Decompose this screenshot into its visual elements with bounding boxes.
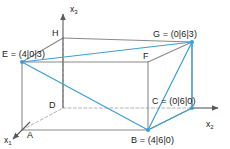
vertex-point-g — [190, 40, 194, 44]
vertex-label-d: D — [49, 101, 56, 110]
vertex-label-e: E = (4|0|3) — [2, 50, 45, 59]
vertex-label-a: A — [27, 131, 33, 140]
vertex-point-e — [20, 60, 24, 64]
vertex-label-f: F — [143, 52, 149, 61]
vertex-label-g: G = (0|6|3) — [153, 30, 197, 39]
highlight-edge-B-G — [148, 42, 192, 130]
vertex-label-b: B = (4|6|0) — [131, 136, 174, 145]
vertex-label-h: H — [52, 29, 59, 38]
figure-canvas — [0, 0, 230, 149]
axis-label-x3: x3 — [70, 5, 78, 14]
highlight-edge-E-G — [22, 42, 192, 62]
axis-label-x2: x2 — [206, 120, 214, 129]
vertex-label-c: C = (0|6|0) — [152, 97, 196, 106]
edge-A-D — [22, 108, 63, 130]
highlight-edge-B-C — [148, 108, 192, 130]
geometry-figure: AB = (4|6|0)C = (0|6|0)DE = (4|0|3)FG = … — [0, 0, 230, 149]
vertex-point-b — [146, 128, 150, 132]
vertex-point-c — [190, 106, 194, 110]
axis-label-x1: x1 — [4, 136, 12, 145]
vertex-points-group — [20, 40, 194, 132]
